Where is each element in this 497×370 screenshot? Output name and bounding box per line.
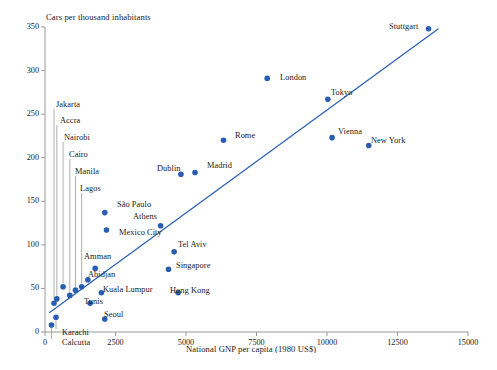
scatter-plot-figure: Cars per thousand inhabitants National G…	[0, 0, 497, 370]
point-label: Hong Kong	[170, 286, 210, 295]
point-label: Athens	[133, 212, 157, 221]
point-label: Karachi	[62, 328, 89, 337]
x-tick-label: 12500	[373, 338, 423, 347]
y-tick-label: 150	[1, 196, 39, 205]
point-label: Vienna	[338, 127, 362, 136]
y-tick-label: 250	[1, 109, 39, 118]
point-label: Jakarta	[56, 100, 80, 109]
point-label: Abidjan	[88, 270, 115, 279]
y-tick-label: 350	[1, 22, 39, 31]
point-label: Tokyo	[331, 88, 353, 97]
point-label: São Paulo	[117, 200, 151, 209]
point-label: Kuala Lumpur	[103, 285, 153, 294]
x-tick-label: 5000	[161, 338, 211, 347]
point-label: Rome	[235, 131, 255, 140]
y-tick-label: 50	[1, 283, 39, 292]
point-label: Tel Aviv	[178, 240, 207, 249]
point-label: Tunis	[84, 297, 103, 306]
y-tick-label: 300	[1, 66, 39, 75]
point-label: Mexico City	[119, 228, 162, 237]
point-label: Accra	[60, 116, 80, 125]
point-label: Calcutta	[62, 338, 90, 347]
point-label: London	[280, 73, 306, 82]
y-tick-label: 100	[1, 240, 39, 249]
y-tick-label: 200	[1, 153, 39, 162]
x-tick-label: 7500	[232, 338, 282, 347]
x-tick-label: 15000	[443, 338, 493, 347]
point-label: Stuttgart	[389, 22, 418, 31]
x-tick-label: 2500	[91, 338, 141, 347]
x-tick-label: 10000	[302, 338, 352, 347]
point-label: Nairobi	[64, 133, 90, 142]
point-label: Dublin	[157, 164, 181, 173]
point-label: Amman	[84, 252, 111, 261]
plot-canvas	[0, 0, 497, 370]
point-label: Cairo	[69, 150, 88, 159]
point-label: Singapore	[176, 261, 210, 270]
data-point-markers	[49, 26, 432, 328]
point-label: New York	[371, 136, 405, 145]
point-label: Seoul	[104, 310, 123, 319]
point-label: Manila	[75, 167, 99, 176]
point-label: Madrid	[207, 161, 232, 170]
point-label: Lagos	[80, 184, 101, 193]
y-tick-label: 0	[1, 327, 39, 336]
